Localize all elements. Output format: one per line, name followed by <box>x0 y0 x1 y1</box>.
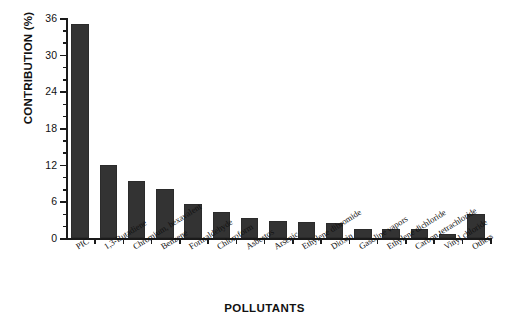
y-axis-line <box>66 18 68 238</box>
bar <box>100 165 118 238</box>
x-tick <box>94 238 96 244</box>
y-tick-minor <box>63 226 67 228</box>
y-tick-major <box>60 201 66 203</box>
y-tick-major <box>60 91 66 93</box>
y-tick-major <box>60 18 66 20</box>
y-axis-title: CONTRIBUTION (%) <box>22 0 34 148</box>
y-tick-minor <box>63 152 67 154</box>
y-tick-minor <box>63 67 67 69</box>
bar <box>71 24 89 238</box>
y-tick-label: 36 <box>45 12 57 24</box>
y-tick-major <box>60 238 66 240</box>
y-tick-label: 6 <box>51 195 57 207</box>
bar-chart-figure: CONTRIBUTION (%) 061218243036 PIC1,3-But… <box>0 0 529 327</box>
y-tick-minor <box>63 42 67 44</box>
plot-area: 061218243036 <box>66 18 490 238</box>
y-tick-major <box>60 128 66 130</box>
y-tick-label: 18 <box>45 122 57 134</box>
y-tick-label: 12 <box>45 159 57 171</box>
y-tick-label: 30 <box>45 49 57 61</box>
y-tick-major <box>60 165 66 167</box>
y-tick-minor <box>63 79 67 81</box>
x-axis-title: POLLUTANTS <box>0 302 529 314</box>
y-tick-label: 0 <box>51 232 57 244</box>
y-tick-major <box>60 55 66 57</box>
y-tick-minor <box>63 177 67 179</box>
y-tick-minor <box>63 104 67 106</box>
y-tick-minor <box>63 189 67 191</box>
y-tick-minor <box>63 140 67 142</box>
y-tick-minor <box>63 116 67 118</box>
y-tick-label: 24 <box>45 85 57 97</box>
y-tick-minor <box>63 30 67 32</box>
y-tick-minor <box>63 214 67 216</box>
